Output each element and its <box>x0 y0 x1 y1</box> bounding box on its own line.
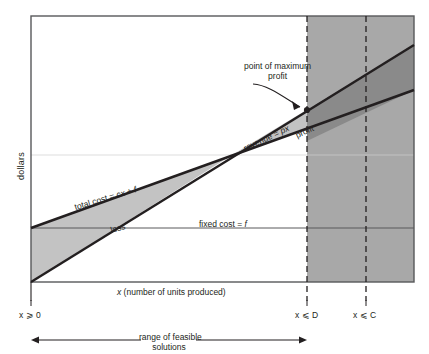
range-arrowhead-right <box>299 337 307 344</box>
chart-canvas <box>0 0 429 354</box>
x-le-d-label: x ⩽ D <box>295 310 318 320</box>
range-of-feasible-solutions-label: range of feasible solutions <box>139 332 199 352</box>
max-profit-arrowhead <box>292 101 300 110</box>
max-profit-line2: profit <box>268 71 287 81</box>
y-axis-label: dollars <box>16 152 27 180</box>
x-ge-0-label: x ⩾ 0 <box>19 310 41 320</box>
range-line2: solutions <box>152 342 186 352</box>
fixed-cost-label: fixed cost = f <box>199 219 247 229</box>
break-even-chart: dollars x (number of units produced) tot… <box>0 0 429 354</box>
x-le-c-label: x ⩽ C <box>353 310 376 320</box>
range-line1: range of feasible <box>139 332 202 342</box>
max-profit-annotation: point of maximum profit <box>244 61 311 81</box>
max-profit-point <box>304 107 310 113</box>
range-arrowhead-left <box>31 337 39 344</box>
max-profit-line1: point of maximum <box>244 61 311 71</box>
x-axis-label: x (number of units produced) <box>117 287 226 297</box>
